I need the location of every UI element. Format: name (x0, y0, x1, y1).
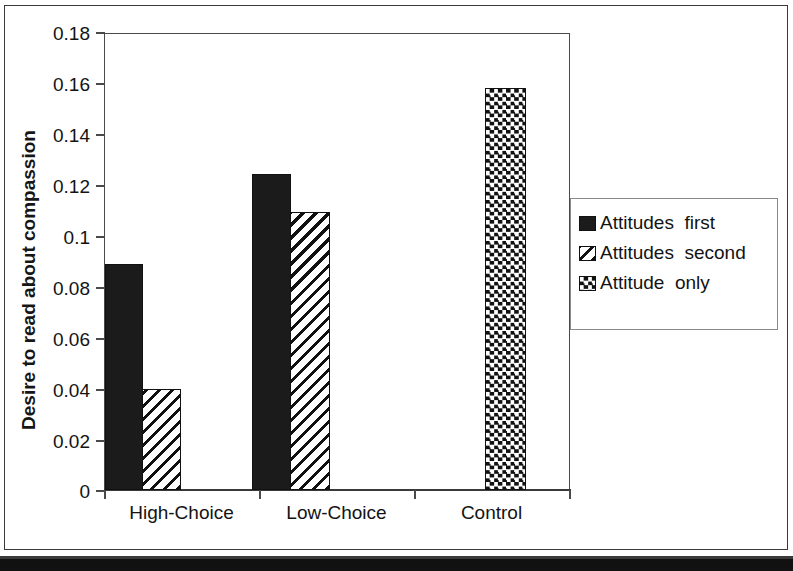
x-tick-mark-1 (259, 490, 261, 499)
bar-high-choice-attitudes-first (105, 264, 143, 490)
y-tick-label-014: 0.14 (24, 125, 90, 147)
x-tick-label-control: Control (414, 502, 569, 524)
y-tick-label-008: 0.08 (24, 278, 90, 300)
y-tick-label-018: 0.18 (24, 23, 90, 45)
x-tick-label-high-choice: High-Choice (104, 502, 259, 524)
legend-label-attitudes-second: Attitudes second (600, 242, 746, 264)
legend-label-attitude-only: Attitude only (600, 272, 710, 294)
y-tick-mark-01 (96, 236, 105, 238)
scanned-page: Desire to read about compassion 0.18 0.1… (0, 0, 793, 571)
bar-chart: Desire to read about compassion 0.18 0.1… (0, 0, 793, 571)
legend-item-attitudes-first: Attitudes first (579, 208, 777, 238)
legend-item-attitudes-second: Attitudes second (579, 238, 777, 268)
x-tick-label-low-choice: Low-Choice (259, 502, 414, 524)
x-tick-mark-right (569, 490, 571, 499)
y-tick-mark-014 (96, 134, 105, 136)
y-tick-label-0: 0 (24, 481, 90, 503)
x-tick-mark-left (104, 490, 106, 499)
y-tick-mark-002 (96, 440, 105, 442)
legend-label-attitudes-first: Attitudes first (600, 212, 715, 234)
y-tick-label-016: 0.16 (24, 74, 90, 96)
diagonal-hatch-swatch-icon (579, 246, 596, 261)
scan-edge-band (0, 556, 793, 571)
y-tick-label-006: 0.06 (24, 329, 90, 351)
y-tick-label-002: 0.02 (24, 431, 90, 453)
x-tick-mark-2 (414, 490, 416, 499)
bar-control-attitude-only (485, 88, 526, 490)
y-tick-mark-012 (96, 185, 105, 187)
checkerboard-swatch-icon (579, 276, 596, 291)
y-tick-mark-016 (96, 83, 105, 85)
bar-low-choice-attitudes-first (252, 174, 291, 490)
y-tick-mark-008 (96, 287, 105, 289)
y-tick-mark-018 (96, 32, 105, 34)
solid-black-swatch-icon (579, 216, 596, 231)
y-tick-mark-006 (96, 338, 105, 340)
chart-legend: Attitudes first Attitudes second Attitud… (570, 198, 778, 330)
y-tick-label-012: 0.12 (24, 176, 90, 198)
y-tick-mark-004 (96, 389, 105, 391)
y-tick-label-01: 0.1 (24, 227, 90, 249)
y-tick-label-004: 0.04 (24, 380, 90, 402)
bar-high-choice-attitudes-second (142, 389, 181, 490)
legend-item-attitude-only: Attitude only (579, 268, 777, 298)
bar-low-choice-attitudes-second (290, 212, 330, 490)
